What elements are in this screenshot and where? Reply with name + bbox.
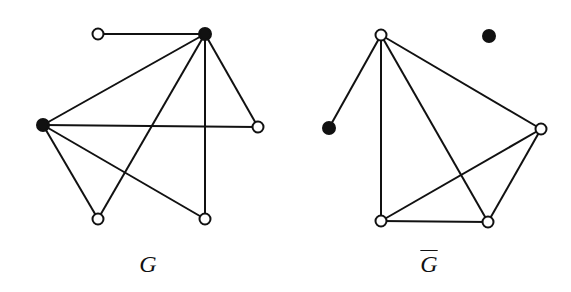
open-vertex-d — [536, 124, 547, 135]
filled-vertex-b — [483, 30, 495, 42]
graph-G_complement — [323, 30, 547, 228]
open-vertex-e — [376, 216, 387, 227]
edge-c-d — [43, 125, 258, 127]
graph-label-g: G — [139, 252, 156, 276]
edge-b-c — [43, 34, 205, 125]
edge-d-e — [381, 129, 541, 221]
edge-a-f — [381, 35, 488, 222]
open-vertex-e — [93, 214, 104, 225]
open-vertex-d — [253, 122, 264, 133]
edge-a-c — [329, 35, 381, 128]
edge-a-d — [381, 35, 541, 129]
filled-vertex-c — [37, 119, 49, 131]
open-vertex-f — [483, 217, 494, 228]
open-vertex-f — [200, 214, 211, 225]
filled-vertex-c — [323, 122, 335, 134]
graph-G — [37, 28, 264, 225]
edge-b-d — [205, 34, 258, 127]
filled-vertex-b — [199, 28, 211, 40]
open-vertex-a — [93, 29, 104, 40]
edge-c-e — [43, 125, 98, 219]
graphs-drawing — [0, 0, 571, 292]
edge-c-f — [43, 125, 205, 219]
graph-label-g-complement: G — [420, 252, 437, 276]
edge-e-f — [381, 221, 488, 222]
open-vertex-a — [376, 30, 387, 41]
diagram-canvas: G G — [0, 0, 571, 292]
edge-d-f — [488, 129, 541, 222]
